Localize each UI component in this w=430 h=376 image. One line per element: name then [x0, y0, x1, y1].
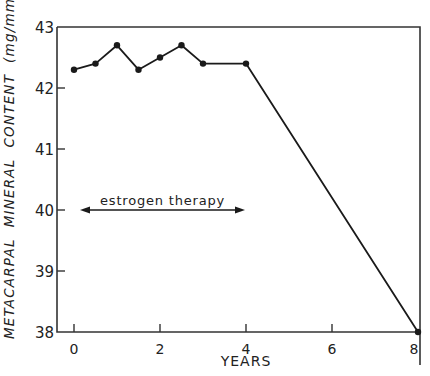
chart: 383940414243 02468 estrogen therapy YEAR…: [0, 0, 430, 376]
data-point: [157, 54, 163, 60]
data-point: [114, 42, 120, 48]
y-tick-label: 39: [35, 263, 54, 281]
x-axis-label: YEARS: [220, 353, 272, 369]
annotation-text: estrogen therapy: [100, 193, 225, 208]
arrow-left-icon: [80, 207, 90, 214]
x-tick-label: 6: [328, 341, 337, 357]
data-series: [71, 42, 421, 335]
x-tick-label: 8: [410, 341, 419, 357]
x-tick-label: 2: [156, 341, 165, 357]
y-tick-label: 43: [35, 19, 54, 37]
data-point: [71, 67, 77, 73]
y-tick-label: 40: [35, 202, 54, 220]
y-axis-ticks: 383940414243: [35, 19, 65, 342]
y-tick-label: 42: [35, 80, 54, 98]
data-point: [178, 42, 184, 48]
arrow-right-icon: [235, 207, 245, 214]
data-point: [415, 329, 421, 335]
series-line: [74, 45, 418, 332]
x-tick-label: 0: [70, 341, 79, 357]
data-point: [243, 60, 249, 66]
y-tick-label: 41: [35, 141, 54, 159]
data-point: [200, 60, 206, 66]
data-point: [135, 67, 141, 73]
y-axis-label: METACARPAL MINERAL CONTENT (mg/mm): [1, 19, 23, 339]
estrogen-therapy-annotation: estrogen therapy: [80, 193, 245, 214]
y-tick-label: 38: [35, 324, 54, 342]
data-point: [92, 60, 98, 66]
